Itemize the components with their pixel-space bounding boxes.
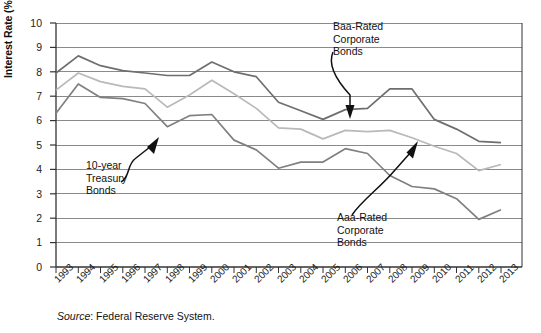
annotation-arrows (121, 52, 418, 215)
series-line-aaa-rated-corporate-bonds (56, 73, 501, 171)
y-tick-marks (50, 23, 56, 267)
baa-annotation-line-3: Bonds (333, 45, 383, 58)
treasury-annotation-line-1: 10-year (86, 159, 127, 172)
aaa-arrow-path (352, 152, 411, 215)
source-note-text: Federal Reserve System. (93, 310, 214, 322)
aaa-annotation-line-2: Corporate (337, 224, 387, 237)
baa-arrow-head (346, 105, 355, 119)
aaa-annotation-line-1: Aaa-Rated (337, 211, 387, 224)
y-gridlines (56, 23, 522, 243)
treasury-annotation-line-2: Treasury (86, 172, 127, 185)
source-note: Source: Federal Reserve System. (57, 310, 215, 322)
aaa-rated-annotation-label: Aaa-Rated Corporate Bonds (337, 211, 387, 249)
baa-annotation-line-2: Corporate (333, 33, 383, 46)
ten-year-treasury-annotation-label: 10-year Treasury Bonds (86, 159, 127, 197)
series-line-10-year-treasury-bonds (56, 84, 501, 219)
source-note-label: Source (57, 310, 90, 322)
baa-rated-annotation-label: Baa-Rated Corporate Bonds (333, 20, 383, 58)
baa-arrow-path (331, 52, 350, 108)
treasury-annotation-line-3: Bonds (86, 184, 127, 197)
interest-rate-chart-figure: Interest Rate (%) 10 9 8 7 6 5 4 3 2 1 0 (0, 0, 541, 333)
baa-annotation-line-1: Baa-Rated (333, 20, 383, 33)
aaa-annotation-line-3: Bonds (337, 236, 387, 249)
